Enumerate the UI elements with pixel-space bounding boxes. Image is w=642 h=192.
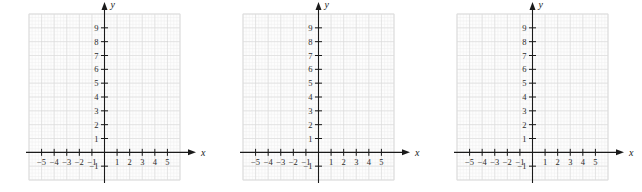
coordinate-plane-3: −5−4−3−2−112345−1123456789xy — [428, 0, 642, 192]
y-tick-label: 7 — [94, 51, 98, 61]
y-tick-label: 6 — [94, 64, 98, 74]
x-tick-label: 3 — [140, 157, 144, 167]
x-axis-arrowhead — [616, 149, 624, 155]
y-axis-arrowhead — [102, 2, 108, 10]
x-tick-label: 3 — [568, 157, 572, 167]
x-tick-label: −3 — [276, 157, 285, 167]
y-tick-label: 7 — [522, 51, 526, 61]
x-tick-label: 4 — [581, 157, 586, 167]
y-axis-label: y — [324, 0, 330, 10]
y-tick-label: 8 — [94, 37, 98, 47]
x-tick-label: −5 — [37, 157, 46, 167]
y-tick-label: −1 — [517, 161, 526, 171]
y-tick-label: 3 — [522, 106, 526, 116]
x-axis-label: x — [414, 147, 420, 158]
coordinate-grid-figure: −5−4−3−2−112345−1123456789xy−5−4−3−2−112… — [0, 0, 642, 192]
x-tick-label: 5 — [379, 157, 383, 167]
x-tick-label: 3 — [354, 157, 358, 167]
x-axis-label: x — [628, 147, 634, 158]
y-tick-label: 5 — [522, 78, 526, 88]
y-tick-label: 5 — [94, 78, 98, 88]
chart-panel-2: −5−4−3−2−112345−1123456789xy — [214, 0, 428, 192]
x-tick-label: 2 — [128, 157, 132, 167]
y-tick-label: 9 — [94, 23, 98, 33]
x-tick-label: −2 — [289, 157, 298, 167]
y-tick-label: −1 — [89, 161, 98, 171]
x-tick-label: −2 — [503, 157, 512, 167]
y-tick-label: 1 — [94, 134, 98, 144]
x-tick-label: −5 — [251, 157, 260, 167]
y-axis-arrowhead — [316, 2, 322, 10]
x-tick-label: 2 — [342, 157, 346, 167]
y-tick-label: 8 — [308, 37, 312, 47]
y-tick-label: 8 — [522, 37, 526, 47]
y-axis-label: y — [110, 0, 116, 10]
x-tick-label: 1 — [329, 157, 333, 167]
x-tick-label: −4 — [264, 157, 274, 167]
x-axis-arrowhead — [402, 149, 410, 155]
y-tick-label: 9 — [522, 23, 526, 33]
x-tick-label: 1 — [543, 157, 547, 167]
x-tick-label: 2 — [556, 157, 560, 167]
y-tick-label: 3 — [94, 106, 98, 116]
x-tick-label: 5 — [165, 157, 169, 167]
x-tick-label: 5 — [593, 157, 597, 167]
y-tick-label: 7 — [308, 51, 312, 61]
x-tick-label: −4 — [478, 157, 488, 167]
y-tick-label: 3 — [308, 106, 312, 116]
x-tick-label: 4 — [153, 157, 158, 167]
x-tick-label: −3 — [62, 157, 71, 167]
chart-panel-3: −5−4−3−2−112345−1123456789xy — [428, 0, 642, 192]
x-axis-arrowhead — [188, 149, 196, 155]
x-axis-label: x — [200, 147, 206, 158]
y-axis-arrowhead — [530, 2, 536, 10]
y-tick-label: 2 — [94, 120, 98, 130]
chart-panel-1: −5−4−3−2−112345−1123456789xy — [0, 0, 214, 192]
x-tick-label: −4 — [50, 157, 60, 167]
x-tick-label: −3 — [490, 157, 499, 167]
x-tick-label: −5 — [465, 157, 474, 167]
x-tick-label: −2 — [75, 157, 84, 167]
x-tick-label: 1 — [115, 157, 119, 167]
x-tick-label: 4 — [367, 157, 372, 167]
coordinate-plane-2: −5−4−3−2−112345−1123456789xy — [214, 0, 428, 192]
y-tick-label: 6 — [308, 64, 312, 74]
y-axis-label: y — [538, 0, 544, 10]
y-tick-label: 9 — [308, 23, 312, 33]
y-tick-label: 1 — [308, 134, 312, 144]
coordinate-plane-1: −5−4−3−2−112345−1123456789xy — [0, 0, 214, 192]
y-tick-label: 5 — [308, 78, 312, 88]
y-tick-label: 6 — [522, 64, 526, 74]
y-tick-label: −1 — [303, 161, 312, 171]
y-tick-label: 2 — [522, 120, 526, 130]
y-tick-label: 1 — [522, 134, 526, 144]
y-tick-label: 2 — [308, 120, 312, 130]
